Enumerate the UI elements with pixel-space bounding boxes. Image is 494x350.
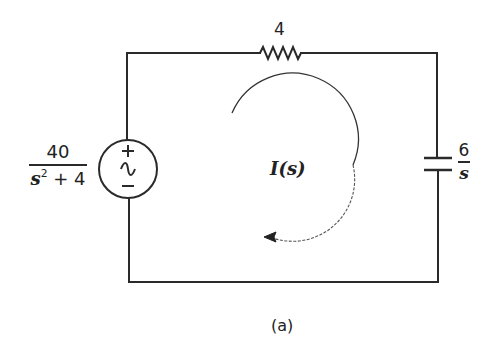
source-value-fraction: 40 s2 + 4 bbox=[29, 143, 87, 188]
right-wire bbox=[437, 53, 438, 281]
source-denominator-var: s bbox=[31, 168, 41, 189]
capacitor-numerator: 6 bbox=[459, 142, 470, 159]
source-denominator: s2 + 4 bbox=[31, 170, 86, 188]
source-denominator-exp: 2 bbox=[41, 167, 48, 180]
capacitor-symbol bbox=[424, 158, 452, 170]
source-numerator: 40 bbox=[47, 143, 70, 161]
current-label: I(s) bbox=[270, 160, 306, 178]
fraction-bar bbox=[29, 164, 87, 166]
figure-caption: (a) bbox=[271, 318, 293, 334]
capacitor-value-fraction: 6 s bbox=[456, 142, 472, 182]
capacitor-denominator: s bbox=[459, 165, 469, 182]
ac-source-symbol bbox=[99, 140, 157, 198]
source-denominator-rest: + 4 bbox=[48, 168, 86, 189]
resistor-value-label: 4 bbox=[274, 21, 285, 38]
resistor-symbol bbox=[260, 47, 301, 59]
